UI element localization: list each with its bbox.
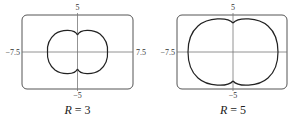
tick-label-top: 5 [231,3,235,12]
tick-label-left: −7.5 [160,48,175,57]
tick-label-top: 5 [76,3,80,12]
graph-panel-r3: 5 −5 −7.5 7.5 R = 3 [5,3,146,117]
tick-label-left: −7.5 [5,48,20,57]
tick-label-bottom: −5 [73,91,82,100]
figure: 5 −5 −7.5 7.5 R = 3 5 −5 −7.5 R = 5 [0,0,288,117]
tick-label-bottom: −5 [229,91,238,100]
caption: R = 5 [219,103,246,117]
tick-label-right: 7.5 [136,48,146,57]
caption: R = 3 [63,103,90,117]
graph-panel-r5: 5 −5 −7.5 R = 5 [160,3,287,117]
